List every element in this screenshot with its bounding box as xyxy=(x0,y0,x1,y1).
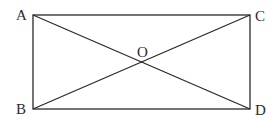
label-b: B xyxy=(16,101,26,117)
label-a: A xyxy=(16,7,27,23)
rectangle-diagram: A B C D O xyxy=(0,0,277,123)
label-c: C xyxy=(255,8,265,24)
label-d: D xyxy=(255,102,266,118)
label-o: O xyxy=(137,44,148,60)
